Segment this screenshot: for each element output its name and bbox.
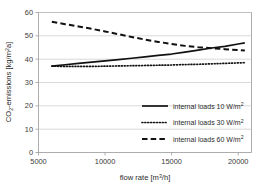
y-tick-label-20: 20 (25, 101, 33, 110)
x-axis-title-main: flow rate [m (120, 173, 159, 182)
y-axis-title-head: CO (4, 111, 13, 122)
y-axis-title-tail: a] (4, 42, 13, 48)
x-tick-label-5000: 5000 (30, 157, 46, 166)
x-axis-title: flow rate [m3/h] (120, 173, 171, 182)
legend-label-2: internal loads 30 W/m2 (173, 118, 244, 126)
legend-label-sup-1: 2 (241, 101, 244, 107)
legend-label-3: internal loads 60 W/m2 (173, 134, 244, 142)
y-tick-label-60: 60 (25, 8, 33, 17)
x-tick-label-10000: 10000 (95, 157, 116, 166)
legend-label-sup-2: 2 (241, 118, 244, 124)
legend-label-sup-3: 2 (241, 134, 244, 140)
y-tick-label-30: 30 (25, 78, 33, 87)
chart-container: 0102030405060 CO2-emissions [kg/m2a] 500… (0, 0, 264, 189)
legend-label-main-3: internal loads 60 W/m (173, 136, 241, 143)
x-tick-label-20000: 20000 (228, 157, 249, 166)
legend-label-main-1: internal loads 10 W/m (173, 103, 241, 110)
x-tick-label-15000: 15000 (161, 157, 182, 166)
co2-emissions-line-chart: 0102030405060 CO2-emissions [kg/m2a] 500… (0, 0, 264, 189)
plot-area (39, 13, 252, 153)
y-tick-label-10: 10 (25, 125, 33, 134)
y-tick-label-50: 50 (25, 31, 33, 40)
y-tick-label-40: 40 (25, 55, 33, 64)
legend-label-main-2: internal loads 30 W/m (173, 119, 241, 126)
x-axis-title-tail: /h] (162, 173, 170, 182)
legend-label-1: internal loads 10 W/m2 (173, 101, 244, 109)
y-axis-title-mid: -emissions [kg/m (4, 51, 13, 108)
